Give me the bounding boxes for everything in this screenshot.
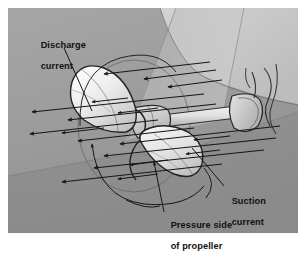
illustration-canvas bbox=[8, 8, 298, 233]
label-pressure-line2: of propeller bbox=[171, 241, 223, 251]
propeller-flow-illustration bbox=[8, 8, 298, 233]
